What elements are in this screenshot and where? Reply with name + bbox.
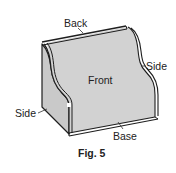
label-side-left: Side xyxy=(15,107,36,119)
label-base: Base xyxy=(113,130,137,142)
label-front: Front xyxy=(88,74,113,86)
label-back: Back xyxy=(64,17,88,29)
figure-5: Back Front Side Side Base Fig. 5 xyxy=(0,0,176,173)
figure-caption: Fig. 5 xyxy=(78,147,106,159)
label-side-right: Side xyxy=(146,60,167,72)
